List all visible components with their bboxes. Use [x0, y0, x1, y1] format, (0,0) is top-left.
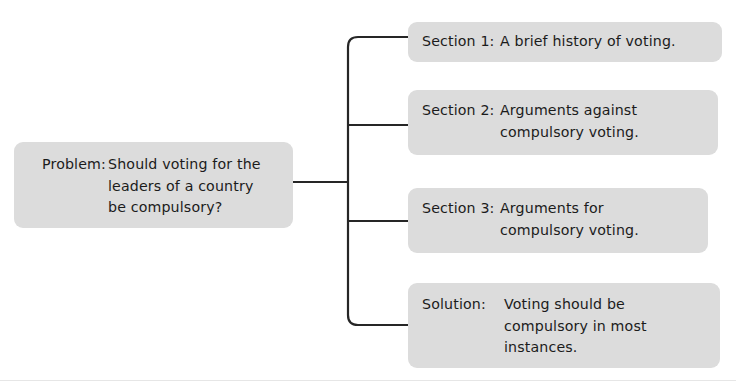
solution-content: Solution: Voting should be compulsory in… — [422, 294, 647, 359]
bottom-divider — [0, 380, 736, 381]
problem-node: Problem: Should voting for the leaders o… — [14, 142, 293, 228]
diagram-canvas: Problem: Should voting for the leaders o… — [0, 0, 736, 390]
solution-text: Voting should be compulsory in most inst… — [504, 294, 647, 359]
section-1-label: Section 1: — [422, 31, 500, 53]
section-2-text: Arguments against compulsory voting. — [500, 100, 639, 143]
solution-node: Solution: Voting should be compulsory in… — [408, 283, 720, 368]
problem-text: Should voting for the leaders of a count… — [108, 154, 261, 219]
section-2-node: Section 2: Arguments against compulsory … — [408, 90, 718, 155]
section-2-content: Section 2: Arguments against compulsory … — [422, 100, 639, 143]
section-3-content: Section 3: Arguments for compulsory voti… — [422, 198, 639, 241]
section-2-label: Section 2: — [422, 100, 500, 122]
solution-label: Solution: — [422, 294, 504, 316]
section-3-node: Section 3: Arguments for compulsory voti… — [408, 188, 708, 253]
section-3-text: Arguments for compulsory voting. — [500, 198, 639, 241]
connector-spine — [348, 37, 408, 325]
section-1-node: Section 1: A brief history of voting. — [408, 22, 722, 62]
section-3-label: Section 3: — [422, 198, 500, 220]
section-1-text: A brief history of voting. — [500, 31, 676, 53]
problem-label: Problem: — [42, 154, 108, 176]
problem-content: Problem: Should voting for the leaders o… — [42, 154, 261, 219]
section-1-content: Section 1: A brief history of voting. — [422, 31, 676, 53]
